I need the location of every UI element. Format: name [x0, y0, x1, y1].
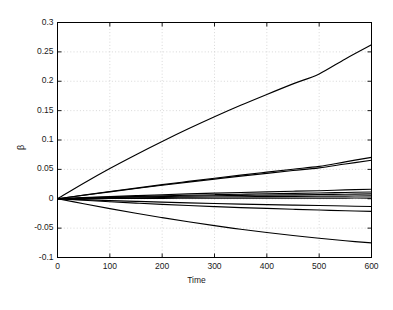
y-tick-label: 0	[14, 194, 54, 203]
gridlines	[58, 23, 372, 258]
figure: -0.1-0.0500.050.10.150.20.250.3 01002003…	[0, 0, 393, 310]
x-tick-label: 100	[90, 262, 130, 271]
x-tick-label: 400	[247, 262, 287, 271]
x-axis-label: Time	[0, 275, 393, 285]
y-tick-label: -0.1	[14, 253, 54, 262]
curve-curve-8	[58, 198, 372, 199]
x-tick-label: 500	[299, 262, 339, 271]
y-axis-label: β	[16, 145, 26, 150]
y-tick-label: -0.05	[14, 223, 54, 232]
y-tick-label: 0.2	[14, 76, 54, 85]
x-tick-label: 0	[38, 262, 78, 271]
y-tick-label: 0.3	[14, 18, 54, 27]
y-tick-label: 0.15	[14, 106, 54, 115]
y-tick-label: 0.1	[14, 135, 54, 144]
x-tick-label: 600	[352, 262, 392, 271]
y-tick-label: 0.25	[14, 47, 54, 56]
x-tick-label: 200	[142, 262, 182, 271]
x-tick-label: 300	[195, 262, 235, 271]
y-tick-label: 0.05	[14, 164, 54, 173]
